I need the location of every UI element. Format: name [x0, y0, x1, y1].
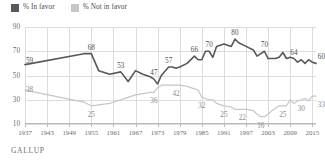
data-point-label: 32 [198, 102, 205, 110]
x-axis-labels: 1937194319491955196119671973197919851991… [25, 129, 316, 141]
gallup-line-chart: % In favor % Not in favor 9070503010 193… [0, 0, 325, 161]
x-axis-tick-label: 1967 [129, 129, 143, 137]
x-axis-tick [69, 124, 70, 127]
legend-swatch-not-in-favor [71, 4, 79, 12]
data-point-label: 66 [191, 46, 198, 54]
data-point-label: 47 [150, 69, 157, 77]
x-axis-tick-label: 1961 [107, 129, 121, 137]
x-axis-tick-label: 1985 [195, 129, 209, 137]
x-axis-tick-label: 1955 [85, 129, 99, 137]
x-axis-tick-label: 1949 [62, 129, 76, 137]
x-axis-tick-label: 2015 [306, 129, 320, 137]
legend-item-not-in-favor[interactable]: % Not in favor [71, 3, 127, 12]
x-axis-tick-label: 1997 [239, 129, 253, 137]
data-point-label: 22 [239, 114, 246, 122]
x-axis-tick [25, 124, 26, 127]
data-point-label: 70 [261, 41, 268, 49]
data-point-label: 53 [117, 62, 124, 70]
x-axis-tick [47, 124, 48, 127]
x-axis-tick [268, 124, 269, 127]
legend-label-not-in-favor: % Not in favor [83, 3, 127, 12]
chart-legend: % In favor % Not in favor [11, 3, 127, 12]
y-axis-tick-label: 30 [5, 96, 20, 104]
data-point-label: 16 [257, 122, 264, 130]
data-point-label: 25 [220, 111, 227, 119]
y-axis-tick-label: 90 [5, 23, 20, 31]
series-line [25, 85, 316, 117]
data-point-label: 30 [298, 105, 305, 113]
x-axis-tick [312, 124, 313, 127]
x-axis-tick-label: 1979 [173, 129, 187, 137]
y-axis-tick-label: 10 [5, 120, 20, 128]
y-axis-tick-label: 50 [5, 72, 20, 80]
x-axis-tick [180, 124, 181, 127]
legend-item-in-favor[interactable]: % In favor [11, 3, 55, 12]
x-axis-tick [202, 124, 203, 127]
data-point-label: 36 [150, 97, 157, 105]
data-point-label: 25 [88, 111, 95, 119]
data-point-label: 42 [172, 90, 179, 98]
data-point-label: 59 [26, 57, 33, 65]
data-point-label: 38 [26, 86, 33, 94]
x-axis-tick-label: 1973 [151, 129, 165, 137]
x-axis-tick [224, 124, 225, 127]
x-axis-tick-label: 1991 [217, 129, 231, 137]
data-point-label: 57 [165, 57, 172, 65]
series-lines [25, 27, 316, 124]
y-axis-tick-label: 70 [5, 47, 20, 55]
data-point-label: 33 [318, 101, 325, 109]
data-point-label: 70 [206, 41, 213, 49]
x-axis-tick [158, 124, 159, 127]
source-label: GALLUP [11, 146, 45, 155]
legend-swatch-in-favor [11, 4, 19, 12]
x-axis-tick-label: 1937 [18, 129, 32, 137]
x-axis-tick [91, 124, 92, 127]
x-axis-tick-label: 2009 [283, 129, 297, 137]
data-point-label: 25 [279, 111, 286, 119]
x-axis-tick-label: 1943 [40, 129, 54, 137]
x-axis-tick [290, 124, 291, 127]
x-axis-tick [113, 124, 114, 127]
x-axis-tick-label: 2003 [261, 129, 275, 137]
data-point-label: 60 [318, 53, 325, 61]
data-point-label: 80 [231, 29, 238, 37]
data-point-label: 68 [88, 44, 95, 52]
legend-label-in-favor: % In favor [23, 3, 55, 12]
x-axis-tick [246, 124, 247, 127]
plot-area [25, 27, 316, 124]
data-point-label: 64 [290, 49, 297, 57]
x-axis-tick [136, 124, 137, 127]
